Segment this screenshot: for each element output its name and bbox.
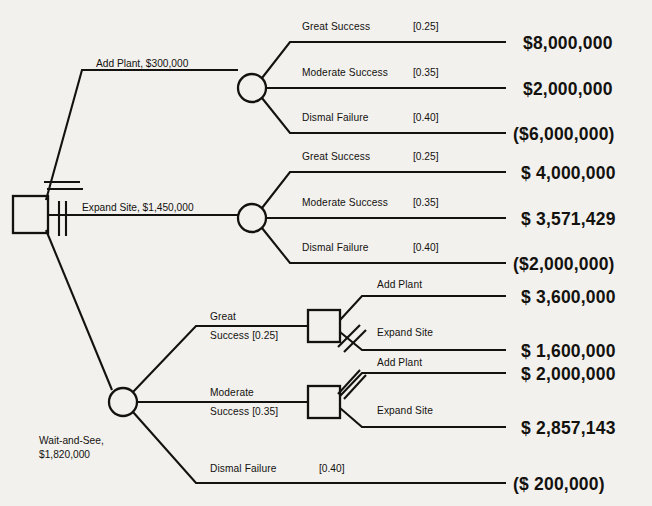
branch-expand-site-dismal-failure[interactable] [262,228,506,263]
prob-expand-site-great-success: [0.25] [413,151,439,162]
branch-great-add-plant[interactable] [340,296,506,320]
label-wait-great-success-line2: Success [0.25] [210,330,278,341]
decision-square-great-success[interactable] [308,310,340,342]
decision-tree-canvas: Add Plant, $300,000 Expand Site, $1,450,… [0,0,652,506]
payoff-expand-site-great-success: $ 4,000,000 [521,163,616,183]
payoff-add-plant-moderate-success: $2,000,000 [523,79,613,99]
label-moderate-expand-site: Expand Site [377,405,433,416]
chance-node-wait-and-see[interactable] [109,388,137,416]
chance-node-expand-site[interactable] [238,204,266,232]
prune-mark-expand-site [59,201,66,236]
payoff-wait-dismal-failure: ($ 200,000) [513,474,605,494]
label-wait-dismal-failure: Dismal Failure [210,463,277,474]
label-add-plant: Add Plant, $300,000 [96,58,189,69]
label-add-plant-dismal-failure: Dismal Failure [302,112,369,123]
decision-tree-svg: Add Plant, $300,000 Expand Site, $1,450,… [0,0,652,506]
label-expand-site-great-success: Great Success [302,151,370,162]
branch-add-plant-dismal-failure[interactable] [262,98,506,133]
payoff-great-add-plant: $ 3,600,000 [521,287,616,307]
root-decision-square[interactable] [13,196,48,233]
prob-add-plant-great-success: [0.25] [413,21,439,32]
prob-expand-site-moderate-success: [0.35] [413,197,439,208]
payoff-expand-site-moderate-success: $ 3,571,429 [521,209,616,229]
label-great-expand-site: Expand Site [377,327,433,338]
payoff-moderate-add-plant: $ 2,000,000 [521,364,616,384]
label-wait-and-see-line2: $1,820,000 [39,449,90,460]
chance-node-add-plant[interactable] [238,74,266,102]
branch-wait-and-see[interactable] [46,230,112,390]
label-wait-moderate-success-line1: Moderate [210,387,254,398]
payoff-moderate-expand-site: $ 2,857,143 [521,418,616,438]
label-wait-moderate-success-line2: Success [0.35] [210,406,278,417]
payoff-great-expand-site: $ 1,600,000 [521,341,616,361]
label-expand-site: Expand Site, $1,450,000 [82,202,194,213]
label-moderate-add-plant: Add Plant [377,357,422,368]
prob-add-plant-dismal-failure: [0.40] [413,112,439,123]
decision-square-moderate-success[interactable] [308,386,340,418]
prob-add-plant-moderate-success: [0.35] [413,67,439,78]
label-great-add-plant: Add Plant [377,279,422,290]
prob-expand-site-dismal-failure: [0.40] [413,242,439,253]
label-add-plant-great-success: Great Success [302,21,370,32]
prob-wait-dismal-failure: [0.40] [319,463,345,474]
prune-mark-great-expand-site [338,325,366,352]
payoff-expand-site-dismal-failure: ($2,000,000) [513,254,615,274]
payoff-add-plant-great-success: $8,000,000 [523,33,613,53]
label-wait-and-see-line1: Wait-and-See, [39,435,104,446]
label-expand-site-dismal-failure: Dismal Failure [302,242,369,253]
label-add-plant-moderate-success: Moderate Success [302,67,388,78]
payoff-add-plant-dismal-failure: ($6,000,000) [513,124,615,144]
branch-add-plant[interactable] [46,70,238,200]
label-wait-great-success-line1: Great [210,311,236,322]
label-expand-site-moderate-success: Moderate Success [302,197,388,208]
